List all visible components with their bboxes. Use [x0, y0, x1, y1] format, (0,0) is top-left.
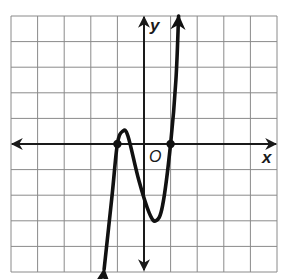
- coordinate-graph: x y O: [0, 0, 285, 279]
- y-axis-label: y: [149, 16, 161, 35]
- x-axis-label: x: [261, 148, 273, 167]
- origin-label: O: [149, 148, 161, 165]
- x-intercept-dot: [166, 140, 174, 148]
- x-intercept-dot: [113, 140, 121, 148]
